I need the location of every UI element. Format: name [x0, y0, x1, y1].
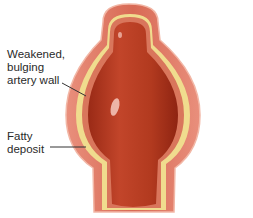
label-line: bulging [7, 61, 65, 74]
label-fatty-deposit: Fatty deposit [7, 130, 44, 156]
label-line: artery wall [7, 74, 65, 87]
label-line: Fatty [7, 130, 44, 143]
label-line: deposit [7, 143, 44, 156]
aneurysm-illustration [0, 0, 253, 218]
label-weakened-wall: Weakened, bulging artery wall [7, 48, 65, 87]
label-line: Weakened, [7, 48, 65, 61]
highlight [118, 32, 122, 38]
